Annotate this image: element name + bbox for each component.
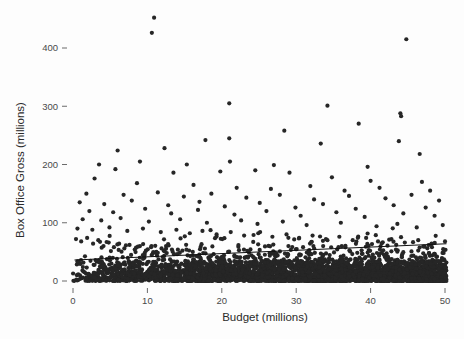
- data-point: [354, 261, 358, 265]
- data-point: [258, 201, 262, 205]
- data-point: [260, 273, 264, 277]
- data-point: [418, 269, 422, 273]
- data-point: [380, 241, 384, 245]
- data-point: [396, 272, 400, 276]
- data-point: [74, 237, 78, 241]
- data-point: [399, 114, 403, 118]
- data-point: [124, 243, 128, 247]
- data-point: [418, 245, 422, 249]
- data-point: [185, 266, 189, 270]
- data-point: [392, 203, 396, 207]
- data-point: [339, 221, 343, 225]
- data-point: [168, 277, 172, 281]
- data-point: [185, 270, 189, 274]
- data-point: [409, 276, 413, 280]
- data-point: [153, 260, 157, 264]
- data-point: [411, 272, 415, 276]
- data-point: [104, 279, 108, 283]
- data-point: [421, 251, 425, 255]
- data-point: [213, 236, 217, 240]
- data-point: [440, 251, 444, 255]
- data-point: [390, 257, 394, 261]
- data-point: [242, 233, 246, 237]
- data-point: [269, 187, 273, 191]
- data-point: [115, 242, 119, 246]
- data-point: [277, 278, 281, 282]
- data-point: [365, 231, 369, 235]
- data-point: [418, 152, 422, 156]
- data-point: [232, 212, 236, 216]
- data-point: [321, 259, 325, 263]
- data-point: [164, 247, 168, 251]
- data-point: [123, 267, 127, 271]
- data-point: [115, 257, 119, 261]
- data-point: [365, 264, 369, 268]
- data-point: [143, 272, 147, 276]
- data-point: [398, 268, 402, 272]
- data-point: [217, 256, 221, 260]
- data-point: [81, 260, 85, 264]
- data-point: [179, 270, 183, 274]
- data-point: [256, 242, 260, 246]
- data-point: [222, 256, 226, 260]
- data-point: [415, 225, 419, 229]
- data-point: [403, 263, 407, 267]
- data-point: [166, 203, 170, 207]
- data-point: [391, 226, 395, 230]
- data-point: [350, 252, 354, 256]
- data-point: [113, 167, 117, 171]
- data-point: [92, 176, 96, 180]
- data-point: [75, 226, 79, 230]
- data-point: [401, 211, 405, 215]
- x-tick-label: 0: [70, 295, 75, 306]
- data-point: [272, 163, 276, 167]
- data-point: [135, 278, 139, 282]
- data-point: [153, 244, 157, 248]
- data-point: [383, 255, 387, 259]
- data-point: [127, 261, 131, 265]
- data-point: [360, 252, 364, 256]
- data-point: [265, 271, 269, 275]
- data-point: [313, 272, 317, 276]
- data-point: [370, 242, 374, 246]
- data-point: [351, 238, 355, 242]
- data-point: [252, 262, 256, 266]
- data-point: [322, 273, 326, 277]
- data-point: [339, 259, 343, 263]
- data-point: [432, 269, 436, 273]
- data-point: [174, 228, 178, 232]
- data-point: [109, 266, 113, 270]
- data-point: [253, 168, 257, 172]
- data-point: [420, 180, 424, 184]
- data-point: [286, 244, 290, 248]
- figure-background: [0, 0, 464, 339]
- data-point: [321, 239, 325, 243]
- data-point: [139, 279, 143, 283]
- data-point: [375, 251, 379, 255]
- data-point: [156, 251, 160, 255]
- data-point: [326, 277, 330, 281]
- data-point: [116, 148, 120, 152]
- data-point: [432, 252, 436, 256]
- data-point: [307, 256, 311, 260]
- data-point: [102, 202, 106, 206]
- data-point: [266, 244, 270, 248]
- data-point: [199, 259, 203, 263]
- data-point: [141, 226, 145, 230]
- data-point: [251, 233, 255, 237]
- data-point: [312, 279, 316, 283]
- data-point: [138, 260, 142, 264]
- data-point: [374, 273, 378, 277]
- data-point: [84, 192, 88, 196]
- data-point: [325, 238, 329, 242]
- data-point: [238, 255, 242, 259]
- data-point: [85, 266, 89, 270]
- data-point: [433, 260, 437, 264]
- data-point: [305, 223, 309, 227]
- data-point: [264, 209, 268, 213]
- data-point: [369, 179, 373, 183]
- data-point: [428, 189, 432, 193]
- data-point: [150, 263, 154, 267]
- y-tick-label: 0: [53, 275, 58, 286]
- data-point: [411, 240, 415, 244]
